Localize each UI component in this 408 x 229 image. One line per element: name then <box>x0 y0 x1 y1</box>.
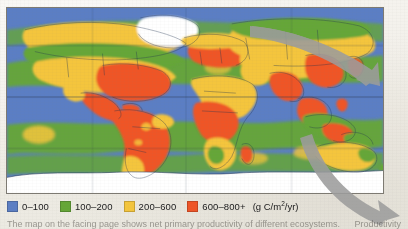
blue-swatch-icon <box>7 201 18 212</box>
legend-units-suffix: /yr) <box>285 201 299 212</box>
legend-label-200-600: 200–600 <box>139 201 177 212</box>
caption-right-fragment: Productivity <box>354 219 401 229</box>
yellow-swatch-icon <box>124 201 135 212</box>
legend-item-100-200: 100–200 <box>60 201 113 212</box>
legend-label-600-800: 600–800+ <box>202 201 245 212</box>
green-swatch-icon <box>60 201 71 212</box>
map-figure <box>6 7 384 194</box>
red-swatch-icon <box>187 201 198 212</box>
map-frame <box>6 7 384 194</box>
npp-legend: 0–100 100–200 200–600 600–800+ (g C/m2/y… <box>7 200 298 212</box>
legend-item-0-100: 0–100 <box>7 201 49 212</box>
legend-units: (g C/m2/yr) <box>253 200 299 212</box>
legend-units-prefix: (g C/m <box>253 201 282 212</box>
world-map-canvas <box>7 8 383 193</box>
figure-caption: Productivity The map on the facing page … <box>7 219 401 229</box>
world-map-svg <box>7 8 383 193</box>
legend-item-600-800: 600–800+ (g C/m2/yr) <box>187 200 298 212</box>
legend-label-100-200: 100–200 <box>75 201 113 212</box>
caption-text: The map on the facing page shows net pri… <box>7 219 340 229</box>
legend-label-0-100: 0–100 <box>22 201 49 212</box>
legend-item-200-600: 200–600 <box>124 201 177 212</box>
